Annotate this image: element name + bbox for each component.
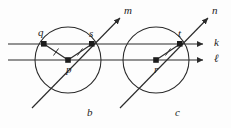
label-r: r — [154, 64, 158, 75]
label-p: p — [66, 64, 72, 75]
label-l: ℓ — [214, 53, 219, 64]
label-t: t — [178, 28, 181, 39]
point-p — [65, 57, 71, 63]
point-q — [41, 41, 47, 47]
point-t — [177, 41, 183, 47]
label-b: b — [87, 107, 93, 118]
point-r — [153, 57, 159, 63]
label-n: n — [212, 5, 218, 16]
tick-mark-ps — [78, 49, 83, 56]
line-n — [120, 18, 208, 108]
geometry-figure: q s p t r b c k ℓ m n — [0, 0, 231, 128]
label-m: m — [124, 5, 132, 16]
tick-mark-qp — [54, 49, 59, 56]
label-s: s — [89, 28, 93, 39]
label-k: k — [214, 37, 219, 48]
label-q: q — [38, 27, 44, 38]
tick-mark-rt — [166, 49, 171, 56]
label-c: c — [175, 107, 180, 118]
geometry-canvas — [0, 0, 231, 128]
line-m — [32, 18, 120, 108]
point-s — [89, 41, 95, 47]
